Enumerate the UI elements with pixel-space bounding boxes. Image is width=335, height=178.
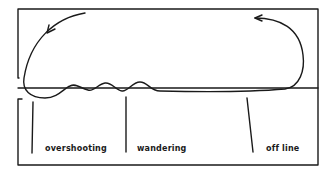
label-wandering: wandering bbox=[137, 145, 187, 153]
traced-path bbox=[24, 13, 304, 98]
label-off-line: off line bbox=[266, 145, 299, 153]
marker-off-line bbox=[247, 98, 253, 152]
marker-overshooting bbox=[32, 102, 33, 153]
label-overshooting: overshooting bbox=[45, 145, 107, 153]
frame-top-bracket bbox=[18, 9, 318, 165]
